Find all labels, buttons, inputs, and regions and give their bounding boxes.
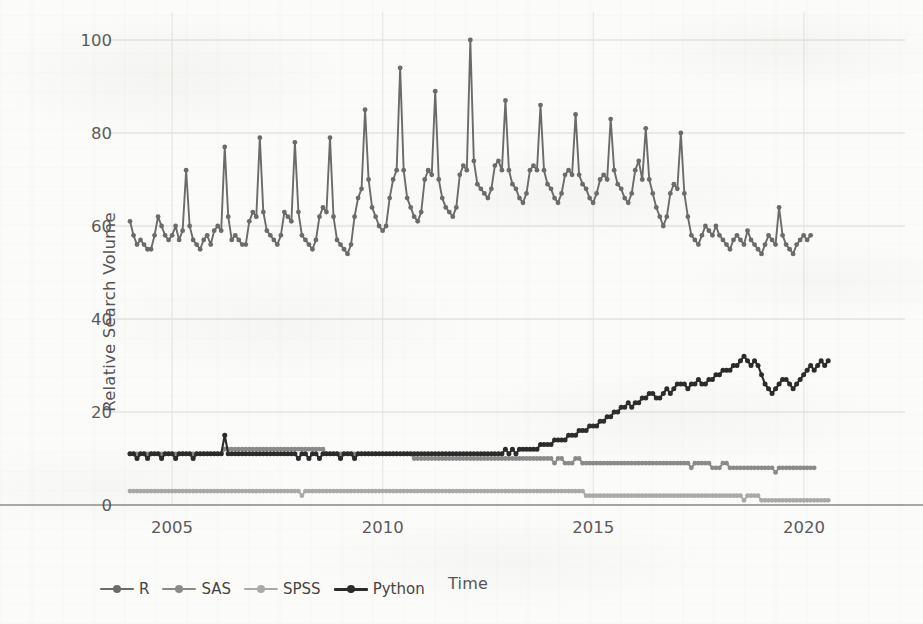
data-point — [570, 172, 575, 177]
data-point — [710, 233, 715, 238]
data-point — [787, 382, 792, 387]
data-point — [559, 456, 564, 461]
legend-label: SAS — [201, 580, 231, 598]
data-point — [187, 224, 192, 229]
y-axis-tick-label: 80 — [91, 124, 112, 143]
data-point — [724, 242, 729, 247]
y-axis-tick-labels: 020406080100 — [0, 0, 112, 624]
legend-item-python[interactable]: Python — [334, 580, 425, 598]
data-point — [633, 168, 638, 173]
data-point — [177, 238, 182, 243]
data-point — [682, 191, 687, 196]
data-point — [717, 372, 722, 377]
data-point — [296, 456, 301, 461]
data-point — [594, 423, 599, 428]
data-point — [394, 168, 399, 173]
data-point — [135, 242, 140, 247]
data-point — [506, 451, 511, 456]
data-point — [454, 205, 459, 210]
data-point — [721, 238, 726, 243]
data-point — [577, 172, 582, 177]
data-point — [612, 168, 617, 173]
data-point — [142, 242, 147, 247]
data-point — [763, 242, 768, 247]
data-point — [580, 182, 585, 187]
data-point — [173, 224, 178, 229]
data-point — [222, 433, 227, 438]
data-point — [738, 238, 743, 243]
data-point — [373, 214, 378, 219]
data-point — [689, 465, 694, 470]
x-axis-title: Time — [448, 574, 488, 593]
data-point — [636, 400, 641, 405]
legend-label: SPSS — [283, 580, 321, 598]
data-point — [734, 363, 739, 368]
data-point — [756, 493, 761, 498]
data-point — [770, 465, 775, 470]
data-point — [805, 368, 810, 373]
data-point — [668, 391, 673, 396]
data-point — [549, 186, 554, 191]
data-point — [742, 354, 747, 359]
data-point — [808, 233, 813, 238]
data-point — [577, 456, 582, 461]
data-point — [657, 214, 662, 219]
data-point — [664, 386, 669, 391]
data-point — [749, 363, 754, 368]
data-point — [135, 456, 140, 461]
data-point — [766, 233, 771, 238]
data-point — [429, 172, 434, 177]
data-point — [191, 238, 196, 243]
data-point — [728, 247, 733, 252]
data-point — [812, 368, 817, 373]
data-point — [563, 172, 568, 177]
data-point — [243, 242, 248, 247]
data-point — [696, 377, 701, 382]
data-point — [461, 163, 466, 168]
data-point — [622, 405, 627, 410]
data-point — [254, 214, 259, 219]
data-point — [752, 242, 757, 247]
data-point — [156, 451, 161, 456]
data-point — [492, 163, 497, 168]
data-point — [363, 107, 368, 112]
data-point — [166, 238, 171, 243]
legend-item-r[interactable]: R — [100, 580, 149, 598]
x-axis-tick-label: 2010 — [362, 518, 404, 537]
legend-item-spss[interactable]: SPSS — [244, 580, 321, 598]
data-point — [282, 210, 287, 215]
data-point — [377, 224, 382, 229]
data-point — [433, 89, 438, 94]
data-point — [464, 168, 469, 173]
data-point — [671, 182, 676, 187]
data-point — [608, 117, 613, 122]
data-point — [563, 437, 568, 442]
data-point — [573, 112, 578, 117]
data-point — [766, 386, 771, 391]
data-point — [447, 210, 452, 215]
data-point — [626, 400, 631, 405]
y-axis-title: Relative Search Volume — [100, 212, 119, 411]
data-point — [517, 196, 522, 201]
data-point — [142, 451, 147, 456]
data-point — [696, 242, 701, 247]
data-point — [608, 414, 613, 419]
data-point — [759, 252, 764, 257]
data-point — [380, 228, 385, 233]
data-point — [489, 186, 494, 191]
data-point — [408, 205, 413, 210]
data-point — [250, 210, 255, 215]
legend-label: Python — [373, 580, 425, 598]
data-point — [654, 205, 659, 210]
data-point — [742, 242, 747, 247]
data-point — [145, 456, 150, 461]
legend-item-sas[interactable]: SAS — [162, 580, 231, 598]
data-point — [233, 233, 238, 238]
data-point — [317, 456, 322, 461]
data-point — [163, 233, 168, 238]
data-point — [707, 461, 712, 466]
data-point — [552, 196, 557, 201]
data-point — [675, 186, 680, 191]
data-point — [345, 252, 350, 257]
data-point — [170, 451, 175, 456]
